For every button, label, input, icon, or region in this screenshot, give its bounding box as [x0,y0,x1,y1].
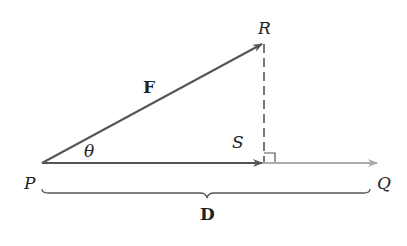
right-angle-marker [264,153,275,162]
d-brace [42,189,370,198]
point-s-label: S [232,134,244,151]
point-p-label: P [24,175,35,192]
angle-theta-label: θ [84,143,94,160]
vector-f-line [42,44,262,163]
point-r-label: R [258,20,271,37]
vector-f-label: F [143,79,155,96]
point-q-label: Q [377,175,391,192]
vector-d-label: D [200,206,215,223]
